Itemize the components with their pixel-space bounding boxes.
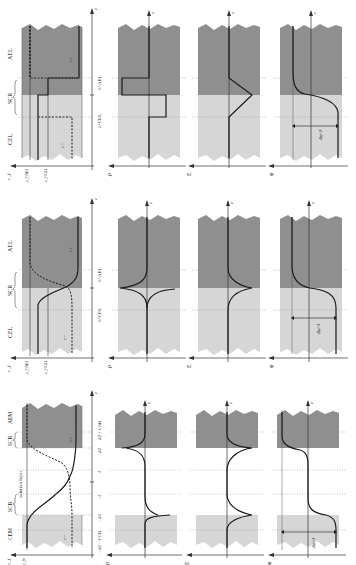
label-scr-left: SCR xyxy=(7,501,13,512)
label-lambda-cel: λ^CEL xyxy=(97,114,102,128)
row-a-concentration-panel: z AEL SCR CEL λ^AEL λ^CEL c+ c− c_f c_f^… xyxy=(6,8,102,182)
row-a-potential-panel: Δφ^J z φ xyxy=(268,10,348,176)
row-c-charge-density-panel: z ρ xyxy=(104,400,182,565)
label-e: E xyxy=(186,172,192,176)
label-z: z xyxy=(93,392,98,395)
label-cf: c_f xyxy=(6,558,11,565)
label-c-minus: c− xyxy=(62,534,67,540)
scr-brace xyxy=(13,272,17,308)
label-rho: ρ xyxy=(106,173,112,177)
row-a-charge-density-panel: z ρ xyxy=(106,10,186,177)
label-cf-ael: c_f^AEL xyxy=(24,360,29,374)
row-c-potential-panel: Δφ^J z φ xyxy=(266,400,346,565)
cation-exchange-layer-region xyxy=(22,95,82,161)
label-c-minus: c− xyxy=(62,334,67,340)
label-z: z xyxy=(150,12,155,15)
row-c-concentration-panel: z AEM SCR solution layer SCR CEM d/2 + λ… xyxy=(6,390,102,565)
label-cem: CEM xyxy=(7,528,13,540)
bipolar-membrane-profiles-figure: z AEL SCR CEL λ^AEL λ^CEL c+ c− c_f c_f^… xyxy=(0,0,356,565)
label-delta-phi: Δφ^J xyxy=(311,537,316,549)
row-c: z AEM SCR solution layer SCR CEM d/2 + λ… xyxy=(6,390,346,565)
label-tick-lambda: Λ xyxy=(97,470,102,474)
label-delta-phi: Δφ^J xyxy=(318,129,323,141)
row-b-concentration-panel: z AEL SCR CEL λ^AEL λ^CEL c+ c− c_f c_f^… xyxy=(6,198,102,374)
label-c-plus: c+ xyxy=(68,56,73,62)
label-tick-minus-lambda: −Λ xyxy=(97,494,102,500)
label-z: z xyxy=(228,402,233,405)
label-tick-minus-d2-minus-lambda: −d/2 − λ^CEL xyxy=(97,529,102,553)
label-cfn: c_fn xyxy=(21,558,26,565)
row-b: z AEL SCR CEL λ^AEL λ^CEL c+ c− c_f c_f^… xyxy=(6,198,348,374)
label-z: z xyxy=(93,8,98,11)
label-phi: φ xyxy=(266,561,272,565)
label-scr-right: SCR xyxy=(7,435,13,446)
label-scr: SCR xyxy=(7,285,13,296)
label-phi: φ xyxy=(268,364,274,368)
row-b-potential-panel: Δφ^J z φ xyxy=(268,200,348,368)
label-cf-cel: c_f^CEL xyxy=(43,167,48,182)
c-axis-arrow-icon xyxy=(10,164,16,168)
label-e: E xyxy=(184,561,190,565)
label-cf: c_f xyxy=(6,173,11,180)
label-z: z xyxy=(148,202,153,205)
label-lambda-ael: λ^AEL xyxy=(97,268,102,283)
scr-brace xyxy=(13,494,17,515)
label-c-plus: c+ xyxy=(68,436,73,442)
label-cf: c_f xyxy=(6,365,11,372)
label-cf-cel: c_f^CEL xyxy=(43,359,48,374)
label-c-plus: c+ xyxy=(68,246,73,252)
label-z: z xyxy=(146,402,151,405)
label-cel: CEL xyxy=(7,326,13,338)
label-ael: AEL xyxy=(7,240,13,252)
label-lambda-ael: λ^AEL xyxy=(97,76,102,91)
label-tick-minus-d2: −d/2 xyxy=(97,514,102,522)
label-z: z xyxy=(229,202,234,205)
row-b-charge-density-panel: z ρ xyxy=(106,200,186,369)
label-delta-phi: Δφ^J xyxy=(316,323,321,335)
label-scr: SCR xyxy=(7,93,13,104)
label-z: z xyxy=(310,202,315,205)
label-solution-layer: solution layer xyxy=(18,470,23,498)
label-tick-d2-plus-lambda: d/2 + λ^AEL xyxy=(97,419,102,440)
label-lambda-cel: λ^CEL xyxy=(97,308,102,322)
label-aem: AEM xyxy=(7,412,13,424)
row-c-electric-field-panel: z E xyxy=(184,400,264,565)
label-z: z xyxy=(312,12,317,15)
row-a-electric-field-panel: z E xyxy=(186,10,266,176)
label-z: z xyxy=(230,12,235,15)
label-cel: CEL xyxy=(7,133,13,145)
scr-brace xyxy=(13,432,17,448)
row-b-electric-field-panel: z E xyxy=(186,200,266,368)
label-ael: AEL xyxy=(7,48,13,60)
row-a: z AEL SCR CEL λ^AEL λ^CEL c+ c− c_f c_f^… xyxy=(6,8,348,182)
scr-brace xyxy=(13,80,17,115)
label-e: E xyxy=(186,364,192,368)
label-cf-ael: c_f^AEL xyxy=(24,168,29,182)
label-tick-d2: d/2 xyxy=(97,448,102,453)
label-z: z xyxy=(309,402,314,405)
anion-exchange-layer-region xyxy=(22,24,82,95)
label-z: z xyxy=(93,198,98,201)
label-rho: ρ xyxy=(106,365,112,369)
label-c-minus: c− xyxy=(60,142,65,148)
label-phi: φ xyxy=(268,172,274,176)
